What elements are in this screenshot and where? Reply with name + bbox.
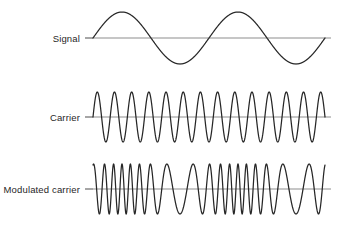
leader-lines-group xyxy=(85,38,93,189)
waveform-paths-group xyxy=(93,12,325,214)
fm-diagram: Signal Carrier Modulated carrier xyxy=(0,0,362,234)
row-label-carrier: Carrier xyxy=(0,113,80,123)
row-label-signal: Signal xyxy=(0,34,80,44)
row-label-modulated: Modulated carrier xyxy=(0,185,80,195)
